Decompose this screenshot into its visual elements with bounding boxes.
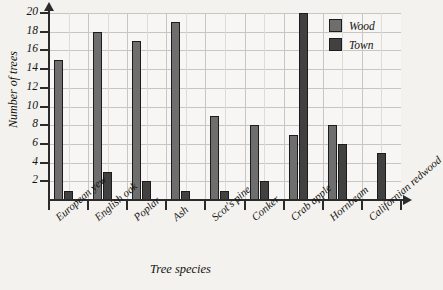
x-axis-title: Tree species	[150, 262, 211, 277]
y-axis-tick	[40, 12, 49, 14]
legend-label-wood: Wood	[349, 20, 375, 32]
x-axis-label-3: Ash	[170, 203, 190, 223]
x-axis-tick	[165, 200, 167, 210]
y-axis-tick	[40, 180, 49, 182]
bar-wood-3	[171, 22, 180, 200]
bar-wood-4	[210, 116, 219, 200]
x-axis-tick	[244, 200, 246, 210]
bar-wood-0	[54, 60, 63, 200]
x-axis-tick	[322, 200, 324, 210]
y-axis-tick-label: 2	[0, 174, 38, 186]
bar-wood-2	[132, 41, 141, 200]
y-axis-tick-label: 4	[0, 156, 38, 168]
y-axis-tick	[40, 162, 49, 164]
y-axis-title: Number of trees	[6, 30, 21, 150]
legend-item-wood: Wood	[329, 16, 395, 35]
x-axis-tick	[204, 200, 206, 210]
legend-item-town: Town	[329, 35, 395, 54]
legend: Wood Town	[329, 16, 395, 54]
x-axis-tick	[361, 200, 363, 210]
bar-town-7	[338, 144, 347, 200]
legend-swatch-town-icon	[329, 38, 342, 51]
y-axis-tick	[40, 49, 49, 51]
bar-town-8	[377, 153, 386, 200]
bar-town-1	[103, 172, 112, 200]
legend-swatch-wood-icon	[329, 19, 342, 32]
y-axis-tick	[40, 143, 49, 145]
x-axis-tick	[87, 200, 89, 210]
y-axis-tick	[40, 124, 49, 126]
bar-wood-5	[250, 125, 259, 200]
x-axis-tick	[126, 200, 128, 210]
y-axis-tick-label: 20	[0, 6, 38, 18]
x-axis-tick	[400, 200, 402, 210]
x-axis-tick	[48, 200, 50, 210]
bar-wood-6	[289, 135, 298, 200]
y-axis-tick	[40, 87, 49, 89]
legend-label-town: Town	[349, 39, 374, 51]
y-axis-arrow-icon	[44, 2, 54, 11]
y-axis-tick	[40, 106, 49, 108]
y-axis-tick	[40, 31, 49, 33]
bar-town-6	[299, 13, 308, 200]
y-axis-tick	[40, 68, 49, 70]
x-axis-tick	[283, 200, 285, 210]
